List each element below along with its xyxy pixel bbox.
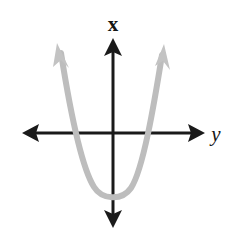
graph-canvas: x y [0,0,243,244]
parabola-figure: x y [0,0,243,244]
vertical-axis-label: x [108,12,119,36]
horizontal-axis-label: y [209,122,221,146]
